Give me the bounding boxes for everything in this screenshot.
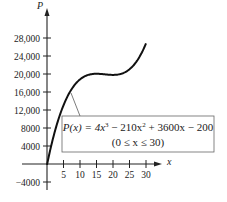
- x-ticks: 51015202530: [61, 160, 151, 180]
- x-tick-label: 30: [141, 170, 151, 180]
- annotation-equation: P(x) = 4x3 − 210x2 + 3600x − 200: [62, 121, 214, 134]
- cubic-function-chart: P x 51015202530 −40004000800012,00016,00…: [0, 0, 227, 202]
- y-tick-label: −4000: [16, 178, 41, 188]
- x-axis-title: x: [166, 156, 172, 167]
- y-tick-label: 16,000: [14, 88, 40, 98]
- y-axis-title: P: [36, 0, 43, 11]
- x-tick-label: 20: [108, 170, 118, 180]
- x-tick-label: 15: [92, 170, 102, 180]
- x-axis-arrow-icon: [154, 162, 162, 167]
- annotation-leader-line: [71, 93, 80, 116]
- x-tick-label: 25: [125, 170, 135, 180]
- y-tick-label: 20,000: [14, 70, 40, 80]
- x-tick-label: 5: [61, 170, 66, 180]
- y-tick-label: 28,000: [14, 34, 40, 44]
- y-tick-label: 8000: [21, 124, 40, 134]
- x-tick-label: 10: [75, 170, 85, 180]
- y-tick-label: 24,000: [14, 52, 40, 62]
- y-axis-arrow-icon: [45, 8, 50, 16]
- y-tick-label: 4000: [21, 142, 40, 152]
- annotation-domain: (0 ≤ x ≤ 30): [112, 136, 165, 149]
- y-tick-label: 12,000: [14, 106, 40, 116]
